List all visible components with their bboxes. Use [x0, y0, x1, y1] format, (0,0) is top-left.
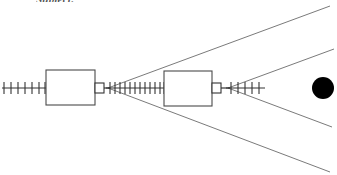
optical-block-one[interactable] [46, 70, 95, 105]
left-graduated-scale [2, 82, 47, 94]
ray-lower-outer [108, 88, 330, 172]
middle-graduated-scale [106, 82, 165, 94]
diagram-canvas: Subject: [0, 0, 337, 175]
optical-block-two[interactable] [164, 71, 212, 106]
right-graduated-scale [226, 82, 265, 94]
connector-two [212, 83, 221, 93]
connector-one [95, 83, 104, 93]
target-disc[interactable] [312, 77, 334, 99]
ray-upper-outer [108, 6, 330, 88]
beam-path-diagram [0, 0, 337, 175]
